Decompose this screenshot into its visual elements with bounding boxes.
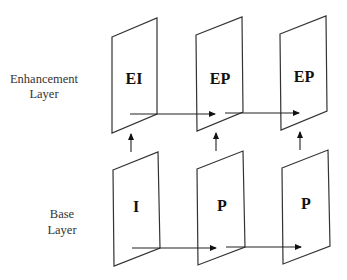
svg-text:EI: EI [126,70,143,87]
layered-coding-diagram: Enhancement Layer Base Layer EI EP EP I … [0,0,347,280]
enhancement-frame-1: EI [112,18,157,133]
svg-text:EP: EP [294,68,315,85]
svg-text:EP: EP [210,70,231,87]
svg-text:Layer: Layer [47,223,77,237]
base-frame-1: I [113,152,160,266]
svg-text:Enhancement: Enhancement [10,72,79,86]
svg-text:Layer: Layer [29,87,59,101]
svg-text:P: P [301,195,311,212]
enhancement-layer-label: Enhancement Layer [10,72,79,101]
base-layer-label: Base Layer [47,207,77,237]
svg-text:P: P [217,197,227,214]
svg-text:I: I [133,198,139,215]
svg-text:Base: Base [50,207,75,221]
